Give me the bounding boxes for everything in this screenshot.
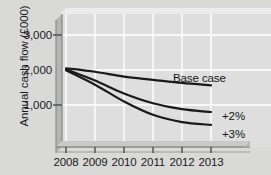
x-tick-label-2013: 2013 [194, 156, 228, 168]
plot-area [0, 0, 271, 175]
series-label-plus-2-percent: +2% [222, 110, 245, 122]
x-axis-top-face [56, 141, 250, 147]
cash-flow-line-chart: Annual cash flow (£000) 3,000 2,000 1,00… [0, 0, 271, 175]
series-label-base-case: Base case [173, 72, 226, 84]
series-label-plus-3-percent: +3% [222, 128, 245, 140]
plot-top-face [60, 8, 271, 14]
